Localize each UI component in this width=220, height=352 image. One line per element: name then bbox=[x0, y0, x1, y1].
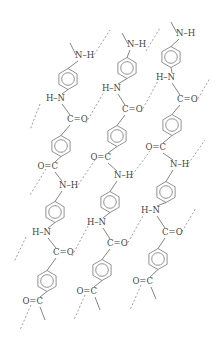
backbone-bond bbox=[110, 181, 117, 192]
amide-hn-label: H–N bbox=[46, 93, 66, 103]
hydrogen-bond-line bbox=[76, 160, 95, 188]
aromatic-circle bbox=[152, 253, 165, 266]
amide-hn-label: H–N bbox=[102, 83, 122, 93]
amide-nh-label: N–H bbox=[59, 180, 78, 190]
amide-nh-label: N–H bbox=[176, 28, 195, 38]
chain-end-bond bbox=[151, 287, 156, 299]
aromatic-circle bbox=[165, 51, 178, 64]
carbonyl-label: C=O bbox=[107, 238, 128, 248]
aromatic-circle bbox=[41, 275, 54, 288]
aromatic-circle bbox=[166, 119, 179, 132]
hydrogen-bond-line bbox=[126, 214, 144, 246]
carbonyl-label: C=O bbox=[53, 247, 74, 257]
hydrogen-bond-line bbox=[30, 104, 40, 130]
carbonyl-label: C=O bbox=[162, 227, 183, 237]
hydrogen-bond-line bbox=[92, 30, 110, 58]
carbonyl-label: O=C bbox=[37, 161, 58, 171]
kevlar-hydrogen-bond-diagram: N–HH–NC=OO=CN–HH–NC=OO=CN–HH–NC=OO=CN–HH… bbox=[0, 0, 220, 352]
carbonyl-label: C=O bbox=[67, 114, 88, 124]
carbonyl-label: O=C bbox=[90, 152, 111, 162]
carbonyl-label: O=C bbox=[132, 276, 153, 286]
hydrogen-bond-line bbox=[30, 169, 46, 195]
backbone-bond bbox=[127, 50, 130, 58]
aromatic-circle bbox=[104, 196, 117, 209]
hydrogen-bond-line bbox=[72, 226, 88, 256]
amide-nh-label: N–H bbox=[170, 159, 189, 169]
backbone-bond bbox=[55, 191, 62, 202]
chain-end-bond bbox=[95, 297, 100, 310]
aromatic-circle bbox=[96, 264, 109, 277]
aromatic-circle bbox=[62, 73, 75, 86]
hydrogen-bond-line bbox=[14, 237, 26, 262]
aromatic-circle bbox=[121, 62, 134, 75]
hydrogen-bond-line bbox=[86, 92, 104, 123]
hydrogen-bond-line bbox=[20, 305, 31, 330]
hydrogen-bond-line bbox=[130, 285, 141, 310]
amide-hn-label: H–N bbox=[87, 217, 107, 227]
chain-end-bond bbox=[40, 307, 45, 320]
hydrogen-bond-line bbox=[146, 28, 160, 51]
backbone-bond bbox=[102, 249, 110, 260]
aromatic-circle bbox=[55, 140, 68, 153]
aromatic-circle bbox=[160, 186, 173, 199]
hydrogen-bond-line bbox=[74, 295, 85, 320]
amide-hn-label: H–N bbox=[32, 227, 52, 237]
amide-hn-label: H–N bbox=[141, 205, 161, 215]
carbonyl-label: O=C bbox=[145, 142, 166, 152]
aromatic-circle bbox=[111, 130, 124, 143]
backbone-bond bbox=[68, 61, 78, 69]
structure-svg: N–HH–NC=OO=CN–HH–NC=OO=CN–HH–NC=OO=CN–HH… bbox=[0, 0, 220, 352]
amide-hn-label: H–N bbox=[156, 72, 176, 82]
carbonyl-label: C=O bbox=[177, 94, 198, 104]
backbone-bond bbox=[171, 39, 179, 47]
carbonyl-label: O=C bbox=[76, 286, 97, 296]
carbonyl-label: C=O bbox=[122, 104, 143, 114]
hydrogen-bond-line bbox=[196, 78, 210, 102]
amide-nh-label: N–H bbox=[114, 170, 133, 180]
backbone-bond bbox=[61, 125, 70, 136]
backbone-bond bbox=[117, 115, 125, 126]
hydrogen-bond-line bbox=[141, 81, 158, 112]
backbone-bond bbox=[172, 105, 180, 115]
amide-nh-label: N–H bbox=[75, 50, 94, 60]
aromatic-circle bbox=[49, 206, 62, 219]
backbone-bond bbox=[166, 170, 173, 182]
backbone-bond bbox=[158, 238, 165, 249]
carbonyl-label: O=C bbox=[22, 296, 43, 306]
amide-nh-label: N–H bbox=[127, 39, 146, 49]
backbone-bond bbox=[47, 258, 56, 271]
